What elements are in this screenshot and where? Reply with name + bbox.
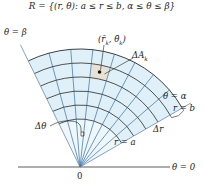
sample-point-dot [98,70,102,74]
r-equals-b-label: r = b [173,104,195,113]
delta-a-label: ΔAk [132,51,148,62]
theta-beta-label: θ = β [4,28,27,37]
sample-point-label: (r̄k, θ̄k) [98,35,126,46]
delta-a-text: ΔA [132,50,144,60]
sample-point-theta: , θ̄ [109,34,120,44]
polar-region-diagram: R = {(r, θ): a ≤ r ≤ b, α ≤ θ ≤ β} θ = β… [0,0,204,184]
sample-point-close: ) [123,34,126,44]
theta-alpha-label: θ = α [163,92,186,101]
r-equals-a-label: r = a [114,138,136,147]
theta-zero-label: θ = 0 [172,163,195,172]
delta-r-label: Δr [153,125,163,134]
delta-theta-label: Δθ [35,122,46,131]
origin-label: 0 [77,172,82,181]
delta-a-subscript: k [144,55,148,62]
region-definition-title: R = {(r, θ): a ≤ r ≤ b, α ≤ θ ≤ β} [0,2,204,11]
